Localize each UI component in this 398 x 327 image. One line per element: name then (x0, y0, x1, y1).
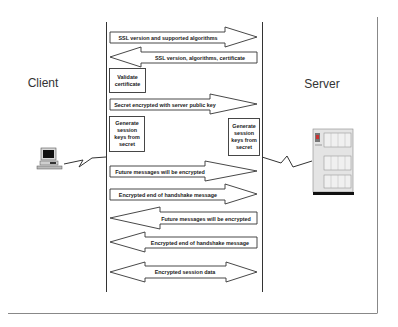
message-arrow-3: Secret encrypted with server public key (110, 94, 257, 114)
message-arrow-1: SSL version and supported algorithms (110, 27, 257, 47)
client-generate-line4: secret (119, 141, 135, 147)
message-arrow-5: Encrypted end of handshake message (110, 184, 257, 204)
message-arrow-4: Future messages will be encrypted (110, 161, 257, 181)
server-generate-line2: session (234, 130, 254, 136)
ssl-handshake-diagram: Client Server SSL version and supported … (0, 0, 398, 327)
message-arrow-7: Encrypted end of handshake message (110, 232, 257, 252)
client-generate-line2: session (117, 127, 137, 133)
server-network-link-icon (262, 156, 312, 167)
message-arrow-2: SSL version, algorithms, certificate (110, 47, 257, 67)
message-label-8: Encrypted session data (155, 269, 217, 275)
message-label-7: Encrypted end of handshake message (151, 240, 249, 246)
server-generate-line3: keys from (231, 137, 257, 143)
client-generate-line1: Generate (115, 120, 138, 126)
validate-certificate-line1: Validate (117, 74, 137, 80)
client-generate-line3: keys from (114, 134, 140, 140)
message-label-5: Encrypted end of handshake message (119, 192, 217, 198)
validate-certificate-line2: certificate (115, 81, 140, 87)
client-network-link-icon (64, 157, 106, 167)
client-label: Client (28, 76, 59, 90)
message-arrow-8: Encrypted session data (110, 262, 257, 282)
message-label-3: Secret encrypted with server public key (114, 102, 216, 108)
message-arrow-6: Future messages will be encrypted (110, 207, 257, 229)
server-generate-line4: secret (236, 144, 252, 150)
server-generate-line1: Generate (232, 123, 255, 129)
desktop-computer-icon (37, 148, 62, 169)
server-cabinet-icon (313, 129, 354, 195)
message-label-4: Future messages will be encrypted (115, 169, 205, 175)
message-label-1: SSL version and supported algorithms (118, 35, 217, 41)
server-generate-keys-box: Generate session keys from secret (229, 119, 260, 156)
client-generate-keys-box: Generate session keys from secret (110, 117, 145, 152)
validate-certificate-box: Validate certificate (110, 69, 146, 93)
server-label: Server (304, 77, 339, 91)
message-label-6: Future messages will be encrypted (161, 216, 251, 222)
message-label-2: SSL version, algorithms, certificate (155, 55, 245, 61)
